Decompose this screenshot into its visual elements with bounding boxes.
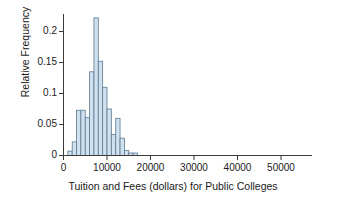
- y-tick-label: 0: [23, 149, 57, 160]
- histogram-figure: Relative Frequency Tuition and Fees (dol…: [0, 0, 346, 202]
- histogram-bar: [124, 151, 128, 156]
- x-tick-label: 0: [40, 162, 88, 173]
- histogram-bar: [98, 61, 102, 155]
- histogram-bar: [94, 18, 98, 156]
- histogram-bar: [90, 72, 94, 156]
- x-tick-label: 40000: [214, 162, 262, 173]
- histogram-bar: [107, 109, 111, 156]
- x-tick-label: 30000: [170, 162, 218, 173]
- histogram-bar: [103, 87, 107, 155]
- x-tick-label: 20000: [127, 162, 175, 173]
- histogram-bar: [81, 110, 85, 155]
- histogram-bar: [116, 118, 120, 155]
- y-tick-label: 0.05: [23, 118, 57, 129]
- histogram-bar: [120, 138, 124, 155]
- x-tick-label: 10000: [83, 162, 131, 173]
- histogram-bar: [85, 118, 89, 156]
- histogram-bar: [72, 142, 76, 156]
- y-tick-label: 0.15: [23, 56, 57, 67]
- histogram-bar: [68, 151, 72, 155]
- histogram-bar: [111, 134, 115, 155]
- bars-group: [68, 18, 138, 156]
- y-tick-label: 0.2: [23, 25, 57, 36]
- x-axis-title: Tuition and Fees (dollars) for Public Co…: [0, 180, 346, 192]
- histogram-bar: [77, 110, 81, 155]
- y-tick-label: 0.1: [23, 87, 57, 98]
- x-tick-label: 50000: [257, 162, 305, 173]
